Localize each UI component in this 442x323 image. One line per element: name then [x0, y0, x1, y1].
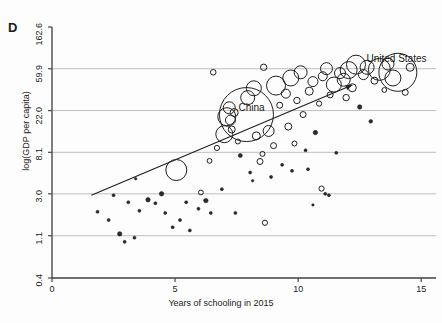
data-point	[230, 109, 238, 117]
data-point	[127, 201, 130, 204]
data-points	[96, 53, 417, 243]
data-point	[347, 55, 366, 74]
data-point	[300, 112, 306, 118]
data-point	[292, 141, 297, 146]
y-tick-label: 0.4	[34, 274, 44, 318]
data-point	[159, 192, 163, 196]
y-tick-label: 8.1	[34, 148, 44, 192]
data-point	[260, 64, 266, 70]
point-label: China	[238, 102, 264, 113]
data-point	[262, 220, 267, 225]
data-point	[270, 175, 273, 178]
data-point	[277, 102, 283, 108]
data-point	[96, 210, 99, 213]
data-point	[382, 88, 387, 93]
data-point	[291, 169, 294, 172]
x-tick-label: 10	[283, 284, 313, 294]
data-point	[313, 130, 317, 134]
data-point	[234, 211, 237, 214]
data-point	[112, 194, 115, 197]
data-point	[123, 240, 126, 243]
data-point	[281, 89, 290, 98]
x-tick-label: 15	[406, 284, 436, 294]
data-point	[220, 188, 223, 191]
trend-line	[91, 85, 352, 195]
scatter-plot	[0, 0, 442, 323]
y-tick-label: 59.9	[34, 65, 44, 109]
data-point	[197, 207, 200, 210]
data-point	[304, 149, 307, 152]
data-point	[146, 198, 150, 202]
data-point	[185, 201, 188, 204]
data-point	[406, 63, 414, 71]
data-point	[312, 204, 314, 206]
data-point	[117, 232, 121, 236]
data-point	[305, 87, 313, 95]
data-point	[281, 163, 284, 166]
data-point	[343, 94, 349, 100]
data-point	[238, 154, 242, 158]
data-point	[133, 236, 136, 239]
data-point	[385, 70, 401, 86]
data-point	[138, 209, 141, 212]
grid-lines	[52, 69, 436, 278]
data-point	[357, 105, 361, 109]
data-point	[285, 123, 292, 130]
data-point	[204, 198, 208, 202]
trend-line-segment	[91, 85, 352, 195]
data-point	[308, 77, 318, 87]
data-point	[216, 126, 233, 143]
data-point	[164, 211, 167, 214]
data-point	[263, 125, 274, 136]
data-point	[257, 159, 263, 165]
y-tick-label: 3.0	[34, 190, 44, 234]
y-tick-label: 1.1	[34, 232, 44, 276]
data-point	[371, 77, 378, 84]
data-point	[171, 226, 174, 229]
data-point	[369, 120, 373, 124]
data-point	[271, 143, 277, 149]
data-point	[294, 97, 300, 103]
data-point	[249, 171, 252, 174]
data-point	[207, 158, 212, 163]
data-point	[252, 132, 260, 140]
x-tick-label: 0	[37, 284, 67, 294]
data-point	[324, 192, 327, 195]
data-point	[107, 219, 110, 222]
point-label: United States	[366, 53, 426, 64]
data-point	[251, 180, 253, 182]
data-point	[154, 202, 157, 205]
y-tick-label: 22.0	[34, 107, 44, 151]
data-point	[307, 168, 310, 171]
y-tick-label: 162.6	[34, 23, 44, 67]
data-point	[316, 101, 321, 106]
figure-panel-d: D log(GDP per capita) Years of schooling…	[0, 0, 442, 323]
data-point	[210, 69, 216, 75]
data-point	[134, 178, 136, 180]
data-point	[209, 211, 212, 214]
data-point	[188, 229, 191, 232]
data-point	[219, 88, 273, 142]
data-point	[214, 145, 219, 150]
data-point	[319, 186, 324, 191]
data-point	[327, 194, 330, 197]
x-tick-label: 5	[160, 284, 190, 294]
data-point	[179, 219, 182, 222]
data-point	[283, 70, 299, 86]
data-point	[335, 151, 338, 154]
